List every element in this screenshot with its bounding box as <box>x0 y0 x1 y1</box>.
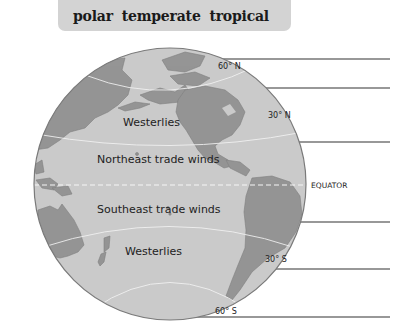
label-northeast-trades: Northeast trade winds <box>97 153 220 166</box>
label-60n: 60° N <box>218 62 241 71</box>
label-30s: 30° S <box>265 255 287 264</box>
label-south-westerlies: Westerlies <box>125 245 182 258</box>
label-north-westerlies: Westerlies <box>123 116 180 129</box>
label-60s: 60° S <box>215 307 237 316</box>
globe-diagram: 60° N 30° N EQUATOR 30° S 60° S Westerli… <box>0 0 408 324</box>
label-equator: EQUATOR <box>311 181 347 190</box>
label-30n: 30° N <box>268 111 291 120</box>
label-southeast-trades: Southeast trade winds <box>97 203 221 216</box>
